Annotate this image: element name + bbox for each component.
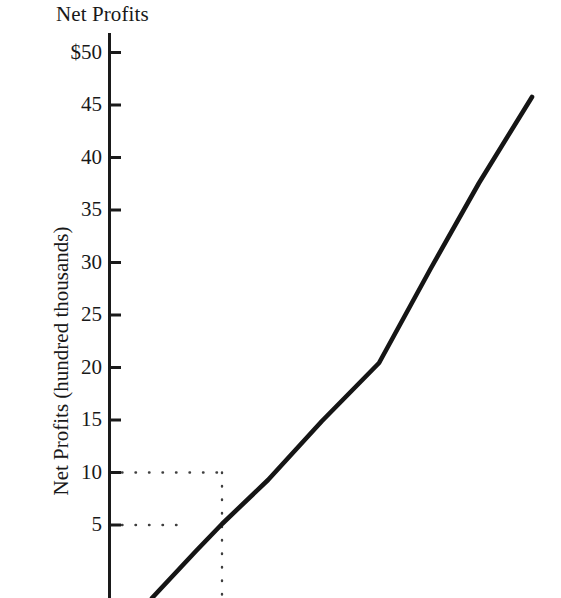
- y-tick-label-30: 30: [22, 252, 102, 273]
- y-tick-label-20: 20: [22, 357, 102, 378]
- y-tick-label-5: 5: [22, 514, 102, 535]
- y-tick-label-45: 45: [22, 94, 102, 115]
- plot-area: [0, 0, 561, 598]
- y-tick-label-50: $50: [22, 42, 102, 63]
- y-tick-label-10: 10: [22, 462, 102, 483]
- y-tick-label-40: 40: [22, 147, 102, 168]
- y-tick-label-15: 15: [22, 409, 102, 430]
- chart-figure: Net Profits Net Profits (hundred thousan…: [0, 0, 561, 598]
- y-tick-label-35: 35: [22, 199, 102, 220]
- y-tick-label-25: 25: [22, 304, 102, 325]
- data-line-net-profits: [152, 97, 532, 598]
